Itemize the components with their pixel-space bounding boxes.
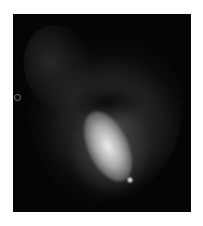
micrograph-image xyxy=(13,14,191,212)
small-particle xyxy=(14,94,21,101)
spindle-pole xyxy=(126,176,134,184)
